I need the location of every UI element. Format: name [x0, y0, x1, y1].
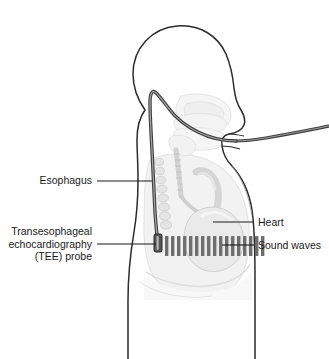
probe-external	[236, 126, 329, 141]
lower-lip	[222, 146, 240, 149]
mouth-opening	[229, 134, 244, 136]
label-tee-line-3: (TEE) probe	[35, 250, 92, 262]
probe-tip-highlight	[157, 236, 159, 250]
label-tee-line-1: Transesophageal	[11, 225, 92, 237]
label-tee-probe: Transesophagealechocardiography(TEE) pro…	[0, 225, 92, 263]
label-sound-waves: Sound waves	[258, 239, 321, 252]
internal-anatomy-group	[140, 94, 252, 300]
sound-waves	[165, 236, 264, 256]
label-heart: Heart	[258, 216, 284, 229]
label-esophagus: Esophagus	[0, 174, 92, 187]
tee-diagram-figure: Esophagus Transesophagealechocardiograph…	[0, 0, 329, 359]
label-tee-line-2: echocardiography	[9, 238, 92, 250]
